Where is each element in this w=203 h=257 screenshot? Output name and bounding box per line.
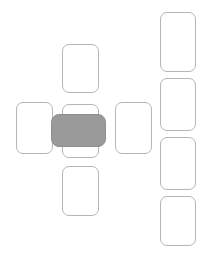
card[interactable] bbox=[62, 166, 99, 216]
card[interactable] bbox=[160, 196, 196, 246]
card-selected[interactable] bbox=[51, 114, 106, 147]
card[interactable] bbox=[62, 44, 99, 93]
card[interactable] bbox=[16, 102, 53, 154]
card[interactable] bbox=[160, 12, 196, 72]
card[interactable] bbox=[115, 102, 152, 154]
card-layout-canvas bbox=[0, 0, 203, 257]
card[interactable] bbox=[160, 137, 196, 190]
card[interactable] bbox=[160, 78, 196, 131]
